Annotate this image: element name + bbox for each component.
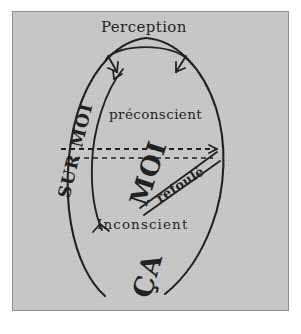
label-preconscient: préconscient	[109, 108, 202, 122]
figure-plate: Perception préconscient Inconscient SUR …	[12, 11, 289, 311]
label-perception: Perception	[101, 20, 187, 35]
diagram-root: Perception préconscient Inconscient SUR …	[0, 0, 301, 334]
perception-arrow-right-icon	[176, 56, 186, 72]
label-inconscient: Inconscient	[97, 218, 188, 232]
